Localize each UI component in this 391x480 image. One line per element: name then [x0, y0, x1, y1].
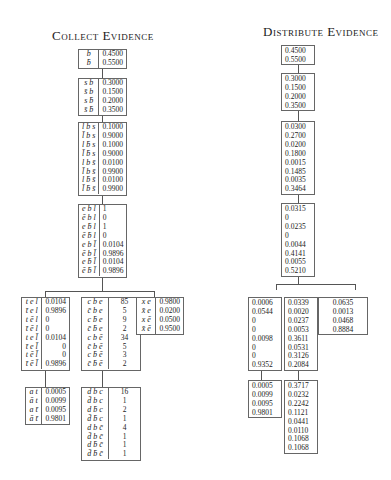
collect-table-xe: x e0.9800 x̄ e0.0200 x ē0.0500 x̄ ē0.950… [136, 297, 184, 335]
distribute-box-xe: 0.0635 0.0013 0.0468 0.8884 [318, 297, 368, 335]
collect-table-sb: s b0.3000 s̄ b0.1500 s b̄0.2000 s̄ b̄0.3… [78, 78, 127, 116]
distribute-evidence-title: Distribute Evidence [263, 24, 379, 40]
collect-table-at: a t0.0005 ā t0.0099 a t̄0.0095 ā t̄0.980… [25, 387, 70, 425]
table-row: t̄ ē l̄0.9896 [22, 360, 69, 369]
collect-table-ebl: e b l1 ē b l0 e b̄ l1 ē b̄ l0 e b l̄0.01… [78, 204, 127, 278]
table-row: s̄ b̄0.3500 [79, 106, 126, 115]
table-row: d̄ b̄ c̄1 [82, 450, 140, 459]
table-row: b̄0.5500 [79, 59, 126, 68]
table-row: x̄ ē0.9500 [137, 325, 183, 334]
table-row: ā t̄0.9801 [26, 415, 69, 424]
distribute-box-ebl: 0.0315 0 0.0235 0 0.0044 0.4141 0.0055 0… [281, 203, 315, 277]
distribute-cbe-to-dbc-line [298, 370, 299, 380]
distribute-tel-to-at-line [261, 370, 262, 380]
collect-table-tel: t e l0.0104 t̄ e l0.9896 t ē l0 t̄ ē l0 … [21, 297, 70, 371]
distribute-box-lbs: 0.0300 0.2700 0.0200 0.1800 0.0015 0.148… [281, 121, 315, 195]
distribute-box-cbe: 0.0339 0.0020 0.0237 0.0053 0.3611 0.053… [284, 297, 318, 371]
table-row: c̄ b̄ ē2 [82, 360, 140, 369]
distribute-box-tel: 0.0006 0.0544 0 0 0.0098 0 0 0.9352 [248, 297, 282, 371]
collect-evidence-title: Collect Evidence [52, 28, 154, 44]
collect-table-dbc: d b c16 d̄ b c1 d b̄ c2 d̄ b̄ c1 d b c̄4… [81, 387, 141, 461]
table-row: l̄ b̄ s̄0.9900 [79, 185, 126, 194]
distribute-branch-line [276, 284, 355, 285]
collect-table-cbe: c b e85 c̄ b e5 c b̄ e9 c̄ b̄ e2 c b ē34… [81, 297, 141, 371]
collect-table-b: b0.4500 b̄0.5500 [78, 49, 127, 69]
collect-branch-line [45, 291, 154, 292]
distribute-box-dbc: 0.3717 0.0232 0.2242 0.1121 0.0441 0.011… [284, 380, 318, 454]
distribute-branch-left-drop [276, 284, 277, 290]
table-row: ē b̄ l̄0.9896 [79, 267, 126, 276]
distribute-box-at: 0.0005 0.0099 0.0095 0.9801 [248, 380, 282, 418]
collect-table-lbs: l b s0.1000 l̄ b s0.9000 l b̄ s0.1000 l̄… [78, 122, 127, 196]
distribute-branch-right-drop [355, 284, 356, 290]
distribute-box-sb: 0.3000 0.1500 0.2000 0.3500 [281, 73, 315, 111]
distribute-box-b: 0.4500 0.5500 [281, 45, 315, 65]
